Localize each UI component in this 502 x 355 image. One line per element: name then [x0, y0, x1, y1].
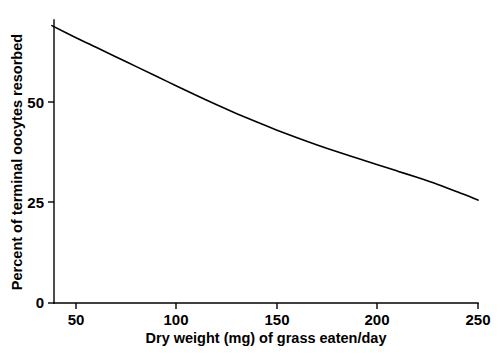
x-tick-label-200: 200 [364, 311, 389, 328]
x-tick-label-150: 150 [264, 311, 289, 328]
chart-figure: 0 25 50 50 100 150 200 250 Dry weight (m… [0, 0, 502, 355]
x-tick-label-100: 100 [163, 311, 188, 328]
y-tick-label-25: 25 [27, 194, 44, 211]
y-tick-label-50: 50 [27, 94, 44, 111]
y-axis-title: Percent of terminal oocytes resorbed [9, 34, 25, 290]
chart-background [0, 0, 502, 355]
y-tick-label-0: 0 [36, 294, 44, 311]
x-tick-label-50: 50 [68, 311, 85, 328]
chart-svg: 0 25 50 50 100 150 200 250 Dry weight (m… [0, 0, 502, 355]
x-tick-label-250: 250 [465, 311, 490, 328]
x-axis-title: Dry weight (mg) of grass eaten/day [146, 330, 387, 346]
